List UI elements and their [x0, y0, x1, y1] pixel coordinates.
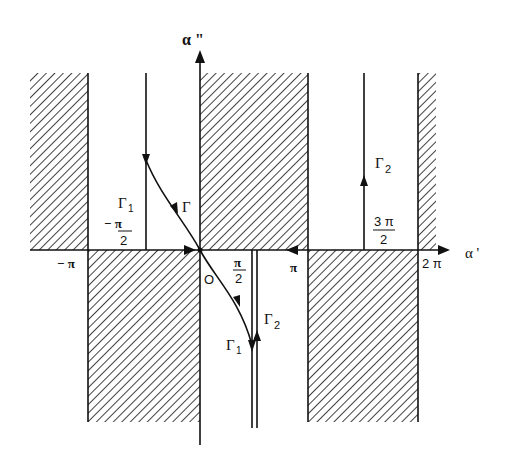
hatched-regions [30, 73, 436, 422]
x-axis-label: α ' [465, 245, 480, 261]
svg-text:− π: − π [104, 216, 122, 231]
tick-neg-pi: − π [57, 256, 75, 271]
svg-text:π: π [234, 255, 241, 270]
origin-point [198, 248, 203, 253]
svg-text:Γ: Γ [226, 337, 235, 353]
hatch-upper-right [418, 73, 436, 250]
gamma-label: Γ [182, 199, 191, 215]
gamma2-upper-arrow-icon [360, 175, 368, 186]
y-axis-label: α " [182, 31, 204, 48]
svg-text:1: 1 [128, 203, 134, 214]
gamma2-upper-label: Γ 2 [375, 155, 391, 175]
svg-text:2: 2 [235, 271, 242, 286]
x-axis-arrow-icon [438, 245, 450, 255]
gamma-arrow-icon [170, 202, 178, 214]
hatch-upper-center [200, 73, 308, 250]
tick-three-half-pi: 3 π 2 [373, 214, 395, 247]
tick-half-pi: π 2 [233, 255, 246, 286]
hatch-upper-left [30, 73, 88, 250]
y-axis-arrow-icon [195, 50, 205, 63]
svg-text:2: 2 [385, 163, 391, 175]
svg-text:Γ: Γ [264, 311, 273, 327]
contour-diagram: α " α ' O − π − π 2 π 2 π 3 π 2 2 π Γ Γ … [0, 0, 508, 457]
gamma1-lower-label: Γ 1 [226, 337, 242, 356]
tick-two-pi: 2 π [422, 256, 442, 271]
svg-text:2: 2 [120, 233, 127, 248]
tick-neg-half-pi: − π 2 [104, 216, 132, 248]
svg-text:Γ: Γ [118, 195, 127, 211]
tick-pi: π [290, 260, 297, 275]
svg-text:Γ: Γ [375, 155, 384, 171]
gamma1-end-arrow-icon [248, 340, 256, 352]
svg-text:1: 1 [236, 345, 242, 356]
gamma2-lower-label: Γ 2 [264, 311, 280, 331]
hatch-lower-right [308, 250, 418, 422]
svg-text:3 π: 3 π [374, 214, 394, 229]
hatch-lower-left [88, 250, 200, 422]
gamma1-down-arrow-icon [142, 154, 150, 165]
gamma1-upper-label: Γ 1 [118, 195, 134, 214]
origin-label: O [204, 272, 214, 287]
svg-text:2: 2 [380, 232, 387, 247]
gamma2-up-arrow-icon [253, 330, 261, 341]
svg-text:2: 2 [274, 319, 280, 331]
